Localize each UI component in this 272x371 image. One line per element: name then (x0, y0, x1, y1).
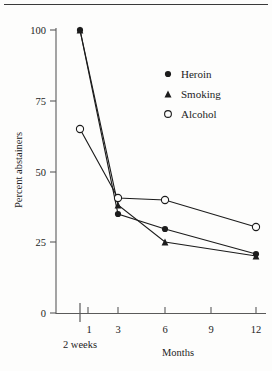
legend-label-heroin: Heroin (181, 68, 212, 80)
y-tick-label-75: 75 (36, 96, 47, 107)
y-tick-label-50: 50 (36, 167, 47, 178)
x-axis-title: Months (162, 347, 194, 358)
x-tick-label-1: 1 (86, 324, 91, 335)
y-axis (50, 28, 56, 314)
data-point-alcohol-2weeks (76, 125, 83, 132)
x-axis (56, 303, 266, 322)
legend-marker-filled-circle-icon (165, 71, 171, 77)
legend-item-heroin[interactable]: Heroin (165, 68, 212, 80)
x-tick-label-6: 6 (162, 324, 167, 335)
legend-item-alcohol[interactable]: Alcohol (165, 108, 217, 120)
series-line-alcohol (80, 129, 256, 227)
x-tick-label-2-weeks: 2 weeks (63, 339, 97, 350)
series-line-heroin (80, 30, 256, 254)
chart-legend: Heroin Smoking Alcohol (165, 68, 222, 120)
data-point-heroin-3 (115, 211, 121, 217)
legend-label-smoking: Smoking (181, 88, 221, 100)
y-tick-label-25: 25 (36, 237, 47, 248)
x-tick-label-12: 12 (251, 324, 262, 335)
data-point-alcohol-12 (252, 223, 259, 230)
y-axis-title: Percent abstainers (13, 132, 24, 208)
line-chart: 100 75 50 25 0 1 3 6 9 12 2 weeks Months… (0, 0, 272, 371)
legend-item-smoking[interactable]: Smoking (165, 88, 222, 100)
x-tick-label-9: 9 (208, 324, 213, 335)
series-line-smoking (80, 30, 256, 256)
data-point-heroin-6 (162, 226, 168, 232)
data-point-alcohol-6 (161, 196, 168, 203)
legend-label-alcohol: Alcohol (181, 108, 216, 120)
legend-marker-open-circle-icon (165, 111, 172, 118)
x-tick-label-3: 3 (115, 324, 120, 335)
figure-container: 100 75 50 25 0 1 3 6 9 12 2 weeks Months… (0, 0, 272, 371)
data-point-alcohol-3 (114, 194, 121, 201)
y-tick-label-0: 0 (41, 308, 46, 319)
y-tick-label-100: 100 (30, 25, 46, 36)
legend-marker-filled-triangle-icon (165, 91, 172, 98)
